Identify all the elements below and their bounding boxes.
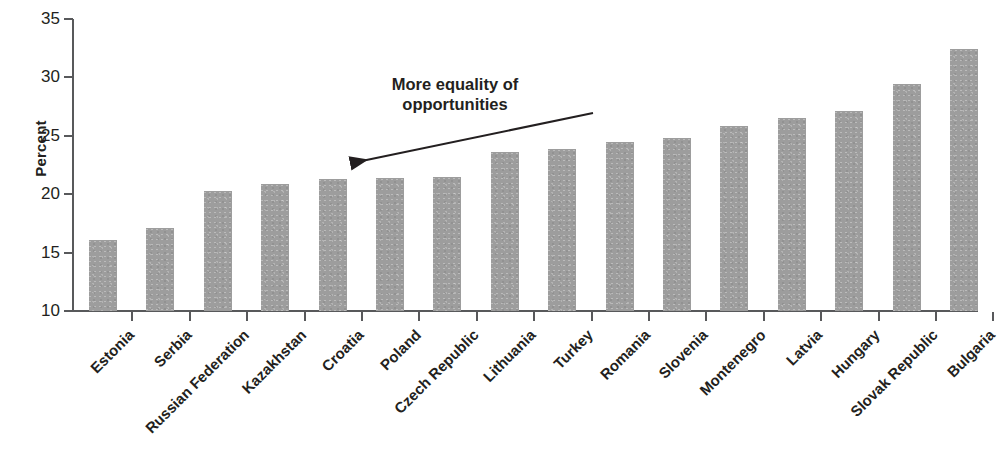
x-axis-tick xyxy=(878,312,880,321)
x-axis-label: Lithuania xyxy=(480,326,539,385)
bar xyxy=(433,177,461,311)
x-axis-tick xyxy=(476,312,478,321)
plot-area xyxy=(0,0,990,311)
x-axis-label: Serbia xyxy=(150,326,194,370)
x-axis-label: Estonia xyxy=(87,326,137,376)
x-axis-tick xyxy=(648,312,650,321)
x-axis-label: Croatia xyxy=(318,326,367,375)
x-axis-tick xyxy=(820,312,822,321)
x-axis-tick xyxy=(189,312,191,321)
x-axis-label: Slovenia xyxy=(655,326,711,382)
bar xyxy=(204,191,232,311)
x-axis-tick xyxy=(246,312,248,321)
x-axis-label: Romania xyxy=(597,326,654,383)
bar xyxy=(261,184,289,311)
x-axis-tick xyxy=(705,312,707,321)
bar xyxy=(319,179,347,311)
annotation-line-1: More equality of xyxy=(330,74,580,94)
bar xyxy=(663,138,691,311)
bar xyxy=(893,84,921,311)
bar xyxy=(89,240,117,311)
bar xyxy=(548,149,576,311)
x-axis-tick xyxy=(361,312,363,321)
annotation-label: More equality of opportunities xyxy=(330,74,580,114)
bar xyxy=(720,126,748,311)
x-axis-label: Latvia xyxy=(783,326,826,369)
x-axis-label: Russian Federation xyxy=(141,326,251,436)
x-axis-label: Poland xyxy=(377,326,424,373)
x-axis-tick xyxy=(418,312,420,321)
x-axis-tick xyxy=(935,312,937,321)
bar xyxy=(146,228,174,311)
bar xyxy=(950,49,978,311)
x-axis-tick xyxy=(131,312,133,321)
bar xyxy=(606,142,634,311)
x-axis-tick xyxy=(304,312,306,321)
bar xyxy=(376,178,404,311)
x-axis-tick xyxy=(992,312,994,321)
bar xyxy=(835,111,863,311)
bar xyxy=(491,152,519,311)
x-axis-tick xyxy=(763,312,765,321)
bar xyxy=(778,118,806,311)
annotation-line-2: opportunities xyxy=(330,94,580,114)
x-axis-label: Turkey xyxy=(550,326,596,372)
x-axis-label: Hungary xyxy=(828,326,883,381)
x-axis-tick xyxy=(591,312,593,321)
x-axis-tick xyxy=(533,312,535,321)
x-axis-label: Bulgaria xyxy=(944,326,998,380)
